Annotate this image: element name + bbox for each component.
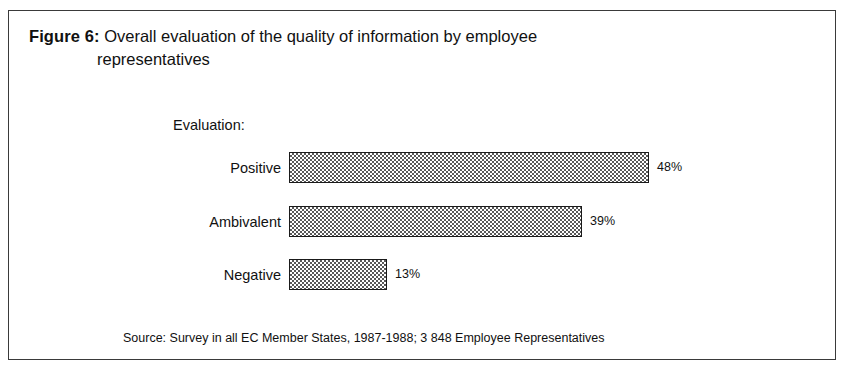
- figure-frame: Figure 6: Overall evaluation of the qual…: [8, 10, 836, 360]
- bar-row: Ambivalent 39%: [9, 206, 837, 238]
- source-note: Source: Survey in all EC Member States, …: [123, 331, 605, 345]
- bar-row: Positive 48%: [9, 152, 837, 184]
- bar-label-ambivalent: Ambivalent: [69, 206, 281, 238]
- bar-value-ambivalent: 39%: [590, 206, 615, 237]
- bar-value-positive: 48%: [657, 152, 682, 183]
- category-axis-title: Evaluation:: [173, 117, 245, 133]
- bar-positive: [289, 152, 649, 183]
- bar-value-negative: 13%: [395, 259, 420, 290]
- bar-chart: Evaluation: Positive 48% Ambivalent 39% …: [9, 11, 837, 361]
- bar-ambivalent: [289, 206, 582, 237]
- bar-label-positive: Positive: [69, 152, 281, 184]
- bar-row: Negative 13%: [9, 259, 837, 291]
- bar-negative: [289, 259, 387, 290]
- bar-label-negative: Negative: [69, 259, 281, 291]
